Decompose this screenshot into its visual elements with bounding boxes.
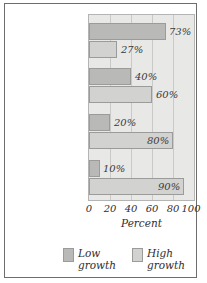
gridline-40 (131, 15, 132, 200)
legend-item-high-growth: High growth (132, 247, 185, 271)
legend-swatch-high-growth (132, 248, 143, 262)
x-tick-40: 40 (125, 203, 138, 214)
figure-frame: All start-ups New-company jobs New-compa… (4, 3, 197, 278)
bar-new-company-sales-low (89, 114, 110, 131)
legend-swatch-low-growth (63, 248, 74, 262)
x-tick-60: 60 (146, 203, 159, 214)
plot-area: 73% 27% 40% 60% 20% 80% 10% 90% (88, 14, 195, 201)
value-label-new-company-sales-low: 20% (114, 117, 136, 129)
legend-label-low-growth: Low growth (78, 247, 116, 271)
legend-label-high-growth: High growth (147, 247, 185, 271)
value-label-new-company-jobs-low: 40% (135, 71, 157, 83)
value-label-all-start-ups-high: 27% (121, 44, 143, 56)
legend-label-line1: Low (78, 247, 116, 259)
value-label-new-company-jobs-high: 60% (156, 89, 178, 101)
gridline-60 (152, 15, 153, 200)
bar-new-company-exports-low (89, 160, 100, 177)
bar-all-start-ups-low (89, 23, 166, 40)
value-label-new-company-sales-high: 80% (147, 135, 169, 147)
gridline-80 (173, 15, 174, 200)
value-label-all-start-ups-low: 73% (169, 26, 191, 38)
bar-new-company-jobs-low (89, 68, 131, 85)
value-label-new-company-exports-high: 90% (158, 181, 180, 193)
value-label-new-company-exports-low: 10% (103, 163, 125, 175)
x-axis-title: Percent (88, 217, 195, 229)
x-tick-80: 80 (167, 203, 180, 214)
bar-all-start-ups-high (89, 41, 117, 58)
legend-label-line1: High (147, 247, 185, 259)
x-tick-100: 100 (181, 203, 200, 214)
legend-item-low-growth: Low growth (63, 247, 116, 271)
x-tick-20: 20 (104, 203, 117, 214)
chart-legend: Low growth High growth (63, 247, 198, 277)
legend-label-line2: growth (78, 259, 116, 271)
legend-label-line2: growth (147, 259, 185, 271)
x-axis-ticks: 0 20 40 60 80 100 (88, 203, 195, 216)
x-tick-0: 0 (86, 203, 92, 214)
bar-new-company-jobs-high (89, 86, 152, 103)
